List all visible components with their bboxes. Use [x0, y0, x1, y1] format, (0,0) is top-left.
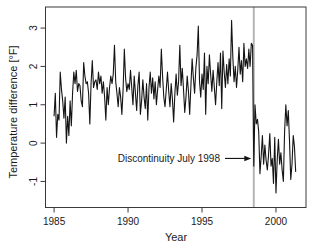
plot-area: 1985199019952000-10123 — [28, 7, 306, 227]
x-tick-label: 1995 — [191, 216, 214, 227]
y-tick-label: 1 — [28, 102, 39, 108]
discontinuity-annotation-label: Discontinuity July 1998 — [118, 153, 221, 164]
x-tick-label: 1985 — [43, 216, 66, 227]
x-axis-title: Year — [165, 231, 188, 243]
y-tick-label: -1 — [28, 177, 39, 186]
temperature-difference-figure: 1985199019952000-10123 Temperature diffe… — [0, 0, 314, 250]
chart-canvas: 1985199019952000-10123 Temperature diffe… — [0, 0, 314, 250]
plot-border — [46, 7, 307, 208]
y-tick-label: 2 — [28, 63, 39, 69]
y-axis-title: Temperature difference [°F] — [7, 45, 19, 178]
x-tick-label: 1990 — [117, 216, 140, 227]
series-line — [54, 20, 296, 193]
y-tick-label: 3 — [28, 25, 39, 31]
x-tick-label: 2000 — [265, 216, 288, 227]
annotation-arrow-head — [244, 156, 251, 162]
y-tick-label: 0 — [28, 140, 39, 146]
